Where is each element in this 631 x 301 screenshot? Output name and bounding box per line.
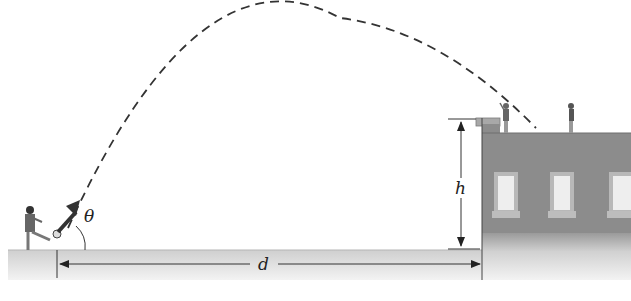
window	[548, 172, 576, 218]
person-on-roof-1	[500, 103, 509, 133]
angle-label: θ	[84, 206, 94, 226]
projectile-diagram: θ h d	[0, 0, 631, 301]
angle-arc	[76, 226, 85, 250]
window	[607, 172, 631, 218]
kicker	[25, 206, 50, 250]
person-on-roof-2	[568, 103, 574, 133]
height-label: h	[455, 178, 466, 198]
velocity-arrow	[58, 212, 76, 232]
window	[492, 172, 520, 218]
distance-label: d	[258, 254, 269, 274]
ground	[8, 250, 631, 280]
